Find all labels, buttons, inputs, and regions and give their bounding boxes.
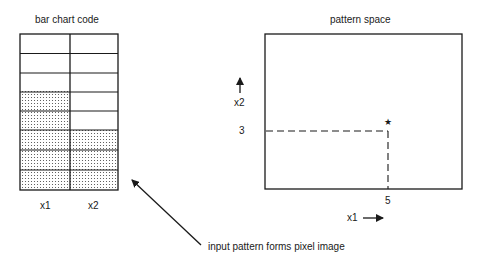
x2-shaded-cells <box>70 129 118 190</box>
caption-text: input pattern forms pixel image <box>208 242 345 252</box>
x2-axis-label: x2 <box>234 98 245 108</box>
x1-column-label: x1 <box>40 201 51 211</box>
pattern-space-title: pattern space <box>330 15 391 25</box>
caption-arrow-icon <box>132 180 201 245</box>
pattern-point-star-icon: ★ <box>384 118 392 127</box>
pattern-space-plot <box>240 34 462 218</box>
bar-chart-code-title: bar chart code <box>35 15 99 25</box>
x2-tick-label: 3 <box>239 126 245 136</box>
x1-shaded-cells <box>20 91 70 190</box>
x1-tick-label: 5 <box>385 196 391 206</box>
x2-column-label: x2 <box>88 201 99 211</box>
bar-chart-code-grid <box>20 34 118 190</box>
x1-axis-label: x1 <box>347 213 358 223</box>
